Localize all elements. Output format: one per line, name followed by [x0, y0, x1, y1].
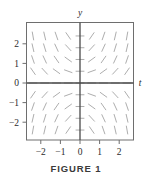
slope-segment — [44, 126, 46, 134]
slope-segment — [64, 70, 72, 73]
y-tick-label: −1 — [9, 98, 19, 108]
y-tick-label: 0 — [14, 78, 19, 88]
slope-segment — [55, 44, 58, 51]
slope-segment — [113, 92, 118, 98]
slope-segment — [89, 104, 96, 109]
slope-segment — [65, 104, 72, 109]
x-tick-label: −2 — [36, 147, 46, 157]
slope-segment — [88, 70, 96, 73]
slope-segment — [44, 44, 46, 52]
y-axis-tick-labels: −2−1012 — [9, 39, 19, 127]
slope-segment — [32, 114, 34, 122]
x-axis-ticks — [41, 140, 119, 144]
slope-segment — [100, 92, 107, 97]
y-axis-ticks — [23, 44, 27, 122]
x-tick-label: 2 — [117, 147, 122, 157]
slope-segment — [89, 45, 94, 51]
slope-segment — [114, 56, 117, 63]
slope-segment — [88, 93, 96, 96]
slope-segment — [32, 56, 35, 64]
slope-segment — [102, 32, 105, 40]
slope-segment — [65, 57, 72, 62]
slope-segment — [126, 32, 127, 40]
figure-container: −2−1012 −2−1012 y t FIGURE 1 — [0, 0, 152, 184]
slope-segment — [101, 56, 106, 63]
slope-segment — [66, 127, 71, 134]
slope-segment — [125, 68, 130, 75]
slope-segment — [101, 103, 106, 110]
x-axis-tick-labels: −2−1012 — [36, 147, 122, 157]
slope-segment — [89, 57, 96, 62]
y-tick-label: 2 — [14, 39, 19, 49]
x-tick-label: 0 — [78, 147, 83, 157]
slope-segment — [31, 68, 36, 75]
slope-segment — [44, 114, 46, 122]
slope-segment — [102, 126, 105, 134]
slope-segment — [126, 56, 129, 64]
slope-segment — [114, 114, 116, 122]
slope-segment — [114, 126, 116, 134]
slope-segment — [114, 32, 116, 40]
slope-segment — [53, 69, 60, 74]
slope-segment — [31, 91, 36, 98]
slope-segment — [64, 93, 72, 96]
slope-segment — [126, 103, 129, 111]
slope-segment — [102, 44, 105, 51]
slope-segment — [89, 33, 94, 40]
slope-segment — [114, 103, 117, 110]
slope-segment — [66, 115, 71, 121]
slope-segment — [42, 68, 47, 74]
slope-segment — [42, 92, 47, 98]
slope-segment — [126, 126, 127, 134]
t-axis-label: t — [139, 78, 142, 88]
y-axis-label: y — [77, 8, 83, 18]
slope-segment — [89, 115, 94, 121]
slope-segment — [32, 44, 34, 52]
slope-segment — [126, 114, 128, 122]
slope-segment — [114, 44, 116, 52]
slope-segment — [66, 33, 71, 40]
slope-segment — [32, 32, 33, 40]
slope-field-plot: −2−1012 −2−1012 y t — [0, 0, 152, 184]
slope-segment — [53, 92, 60, 97]
slope-segment — [89, 127, 94, 134]
slope-segment — [43, 103, 46, 110]
slope-segment — [126, 44, 128, 52]
slope-segment — [54, 103, 59, 110]
slope-segment — [113, 68, 118, 74]
slope-segment — [100, 69, 107, 74]
slope-segment — [55, 126, 58, 134]
slope-segment — [55, 32, 58, 40]
slope-segment — [55, 115, 58, 122]
slope-segment — [54, 56, 59, 63]
y-tick-label: −2 — [9, 118, 19, 128]
slope-segment — [44, 32, 46, 40]
slope-segment — [102, 115, 105, 122]
figure-caption: FIGURE 1 — [0, 163, 152, 174]
slope-segment — [43, 56, 46, 63]
y-tick-label: 1 — [14, 59, 19, 69]
slope-segment — [32, 126, 33, 134]
slope-segment — [66, 45, 71, 51]
slope-segment — [125, 91, 130, 98]
slope-segment — [32, 103, 35, 111]
x-tick-label: −1 — [55, 147, 65, 157]
x-tick-label: 1 — [97, 147, 102, 157]
